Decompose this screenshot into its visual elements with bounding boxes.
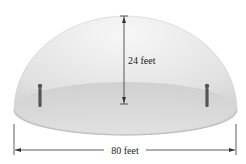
dome-floor <box>16 82 236 134</box>
dome-diagram: 24 feet 80 feet <box>0 0 246 164</box>
width-label: 80 feet <box>111 145 139 156</box>
height-label: 24 feet <box>128 55 156 66</box>
person-right-icon <box>205 84 209 107</box>
person-left-icon <box>38 84 42 107</box>
